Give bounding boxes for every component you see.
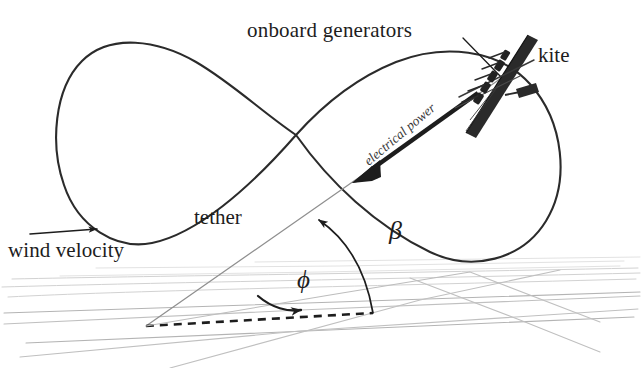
kite-graphic [455, 35, 539, 138]
onboard-generators-leader-line [463, 38, 502, 78]
kite-winglet [505, 83, 539, 98]
figure-root: onboard generators kite electrical power… [0, 0, 642, 368]
label-tether: tether [194, 207, 242, 228]
ground-plane [2, 257, 640, 368]
label-phi-angle: ϕ [297, 267, 310, 292]
tether-ground-projection [146, 313, 373, 326]
label-kite: kite [538, 45, 570, 66]
wind-velocity-arrow [30, 229, 97, 234]
label-onboard-generators: onboard generators [247, 20, 412, 41]
label-beta-angle: β [389, 218, 402, 244]
label-wind-velocity: wind velocity [8, 240, 124, 261]
flight-path-figure-eight [56, 43, 560, 262]
